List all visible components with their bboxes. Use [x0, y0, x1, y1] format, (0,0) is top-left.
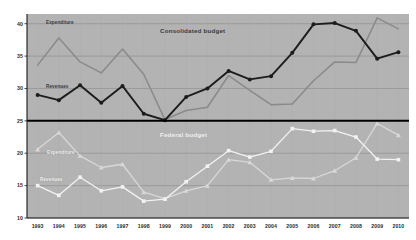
data-point [333, 129, 337, 133]
x-axis-tick-label: 2005 [281, 223, 303, 229]
series-annotation-consolidated-expenditure: Expenditure [46, 20, 74, 25]
data-point [354, 135, 358, 139]
data-point [206, 164, 210, 168]
x-axis-tick-label: 1993 [27, 223, 49, 229]
data-point [269, 74, 273, 78]
data-point [396, 50, 400, 54]
series-annotation-federal-revenues: Revenues [40, 177, 63, 182]
data-point [99, 189, 103, 193]
data-point [312, 22, 316, 26]
data-point [121, 84, 125, 88]
data-point [121, 185, 125, 189]
x-axis-tick-label: 2000 [175, 223, 197, 229]
data-point [142, 199, 146, 203]
data-point [248, 155, 252, 159]
x-axis-tick-label: 2001 [196, 223, 218, 229]
data-point [36, 184, 40, 188]
data-point [57, 98, 61, 102]
series-annotation-federal-expenditure: Expenditure [47, 150, 75, 155]
series-annotation-consolidated-revenues: Revenues [46, 84, 69, 89]
x-axis-tick-label: 2003 [239, 223, 261, 229]
data-point [248, 77, 252, 81]
x-axis-tick-label: 1994 [48, 223, 70, 229]
y-axis-tick-label: 30 [2, 85, 23, 91]
data-point [184, 180, 188, 184]
y-axis-tick-label: 10 [2, 215, 23, 221]
budget-chart-figure: 4035302520151019931994199519961997199819… [0, 0, 416, 240]
data-point [163, 197, 167, 201]
data-point [397, 158, 401, 162]
data-point [36, 93, 40, 97]
y-axis-tick-label: 35 [2, 53, 23, 59]
data-point [333, 21, 337, 25]
data-point [290, 51, 294, 55]
panel-title-federal: Federal budget [160, 131, 207, 138]
data-point [375, 157, 379, 161]
data-point [78, 83, 82, 87]
y-axis-tick-label: 20 [2, 150, 23, 156]
data-point [227, 69, 231, 73]
y-axis-tick-label: 40 [2, 21, 23, 27]
data-point [375, 57, 379, 61]
data-point [290, 127, 294, 131]
x-axis-tick-label: 1998 [133, 223, 155, 229]
data-point [99, 101, 103, 105]
panel-title-consolidated: Consolidated budget [160, 27, 225, 34]
x-axis-tick-label: 2006 [303, 223, 325, 229]
x-axis-tick-label: 2002 [218, 223, 240, 229]
x-axis-tick-label: 2004 [260, 223, 282, 229]
data-point [354, 29, 358, 33]
data-point [184, 95, 188, 99]
chart-canvas [0, 0, 416, 240]
x-axis-tick-label: 2007 [324, 223, 346, 229]
data-point [227, 149, 231, 153]
y-axis-tick-label: 25 [2, 118, 23, 124]
x-axis-tick-label: 2008 [345, 223, 367, 229]
x-axis-tick-label: 2010 [387, 223, 409, 229]
data-point [312, 129, 316, 133]
x-axis-tick-label: 1997 [112, 223, 134, 229]
data-point [142, 112, 146, 116]
data-point [205, 86, 209, 90]
y-axis-tick-label: 15 [2, 182, 23, 188]
x-axis-tick-label: 2009 [366, 223, 388, 229]
x-axis-tick-label: 1996 [90, 223, 112, 229]
data-point [269, 149, 273, 153]
x-axis-tick-label: 1995 [69, 223, 91, 229]
data-point [78, 175, 82, 179]
x-axis-tick-label: 1999 [154, 223, 176, 229]
data-point [57, 194, 61, 198]
plot-texture [27, 14, 409, 218]
